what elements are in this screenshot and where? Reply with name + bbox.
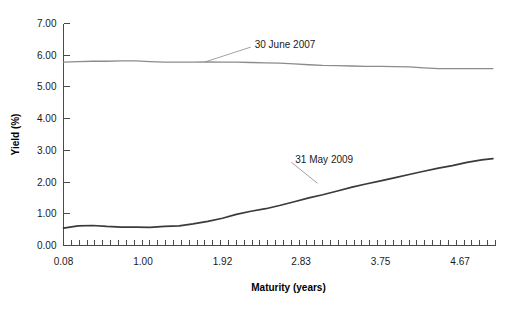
x-tick-label: 4.67 [450,256,470,267]
y-tick-label: 6.00 [37,50,57,61]
annotation-label: 31 May 2009 [295,154,353,165]
y-tick-label: 4.00 [37,113,57,124]
annotation-leader-line [291,162,317,183]
x-tick-label: 0.08 [54,256,74,267]
x-tick-label: 1.00 [133,256,153,267]
x-axis-ticks: 0.081.001.922.833.754.67 [54,240,496,267]
x-tick-label: 3.75 [371,256,391,267]
y-tick-label: 7.00 [37,18,57,29]
y-tick-label: 1.00 [37,208,57,219]
x-axis-title: Maturity (years) [251,282,325,293]
y-tick-label: 5.00 [37,81,57,92]
yield-curve-chart: 0.001.002.003.004.005.006.007.00 0.081.0… [0,0,511,309]
y-axis-ticks: 0.001.002.003.004.005.006.007.00 [37,18,69,251]
series-lines [64,61,493,228]
series-annotations: 30 June 200731 May 2009 [205,39,353,183]
x-tick-label: 2.83 [291,256,311,267]
y-tick-label: 0.00 [37,240,57,251]
x-tick-label: 1.92 [213,256,233,267]
annotation-label: 30 June 2007 [255,39,316,50]
annotation-leader-line [205,47,251,62]
y-axis-title: Yield (%) [10,114,21,156]
series-line [64,61,493,69]
series-line [64,159,493,228]
chart-canvas: 0.001.002.003.004.005.006.007.00 0.081.0… [0,0,511,309]
y-tick-label: 2.00 [37,177,57,188]
y-tick-label: 3.00 [37,145,57,156]
